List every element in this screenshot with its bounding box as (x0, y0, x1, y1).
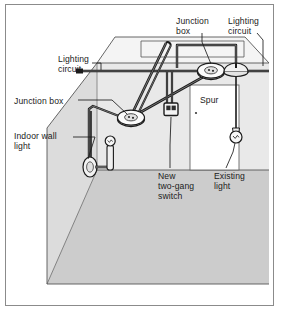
label-new-two-gang-switch: New two-gang switch (158, 171, 194, 202)
label-spur: Spur (200, 95, 219, 105)
diagram-scene (0, 0, 281, 313)
label-junction-box-wall: Junction box (14, 96, 63, 106)
junction-box-wall-icon[interactable] (118, 110, 145, 126)
junction-box-ceiling-icon[interactable] (198, 63, 225, 79)
label-junction-box-ceiling: Junction box (176, 16, 209, 36)
two-gang-switch-icon[interactable] (164, 103, 178, 116)
label-existing-light: Existing light (214, 171, 245, 191)
label-lighting-circuit-left: Lighting circuit (58, 54, 89, 74)
wiring-diagram: Junction box Lighting circuit Lighting c… (0, 0, 281, 313)
label-indoor-wall-light: Indoor wall light (14, 131, 57, 151)
label-lighting-circuit-right: Lighting circuit (228, 16, 259, 36)
